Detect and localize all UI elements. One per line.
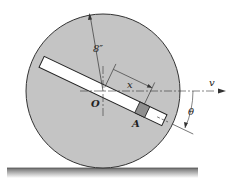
block-label-a: A [131, 118, 140, 129]
radius-label: 8″ [93, 43, 103, 54]
velocity-arrow-head [218, 89, 226, 94]
angle-label-theta: θ [188, 106, 194, 117]
diagram-canvas: 8″ O A x v θ [0, 0, 240, 182]
ground [7, 168, 198, 178]
distance-label-x: x [127, 79, 133, 90]
theta-arrow-head [184, 122, 188, 128]
angle-reference-line [172, 124, 193, 134]
center-label-o: O [91, 98, 100, 109]
velocity-label-v: v [209, 77, 215, 88]
